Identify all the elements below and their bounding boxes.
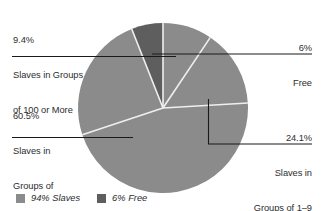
label-groups-1-9-line2: Groups of 1–9 [254,203,312,211]
label-groups-10-99-line1: Slaves in [13,146,53,158]
label-free-percent: 6% [293,43,312,55]
label-groups-10-99-percent: 60.5% [13,111,53,123]
legend-label-free: 6% Free [112,193,147,203]
label-groups-10-99-line2: Groups of [13,181,53,193]
legend-swatch-slaves [16,194,25,203]
label-groups-1-9-percent: 24.1% [254,133,312,145]
label-groups-100-or-more-percent: 9.4% [13,35,83,47]
legend-item-free[interactable]: 6% Free [97,193,147,203]
legend-swatch-free [97,194,106,203]
legend-item-slaves[interactable]: 94% Slaves [16,193,80,203]
chart-legend: 94% Slaves 6% Free [16,193,147,203]
label-groups-1-9-line1: Slaves in [254,168,312,180]
pie-chart: 9.4% Slaves in Groups of 100 or More 60.… [0,0,323,211]
label-free-line1: Free [293,78,312,90]
label-groups-100-or-more-line1: Slaves in Groups [13,70,83,82]
legend-label-slaves: 94% Slaves [31,193,80,203]
label-groups-1-9: 24.1% Slaves in Groups of 1–9 [254,110,312,211]
label-free: 6% Free [293,20,312,113]
